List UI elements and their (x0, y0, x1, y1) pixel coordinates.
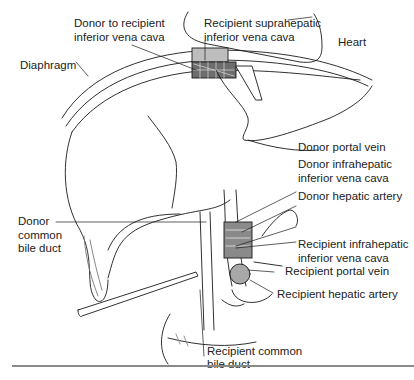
hilar-vessels (200, 190, 298, 330)
label-recipient-suprahepatic-ivc: Recipient suprahepatic inferior vena cav… (204, 17, 321, 44)
label-donor-portal-vein: Donor portal vein (298, 141, 386, 155)
label-donor-common-bile-duct: Donor common bile duct (18, 215, 62, 256)
label-recipient-infrahepatic-ivc: Recipient infrahepatic inferior vena cav… (298, 238, 409, 265)
bottom-rule (12, 365, 414, 367)
label-donor-to-recipient-ivc: Donor to recipient inferior vena cava (74, 17, 165, 44)
label-donor-hepatic-artery: Donor hepatic artery (298, 190, 402, 204)
label-diaphragm: Diaphragm (20, 59, 76, 73)
label-recipient-hepatic-artery: Recipient hepatic artery (277, 288, 398, 302)
label-recipient-portal-vein: Recipient portal vein (285, 265, 389, 279)
label-donor-infrahepatic-ivc: Donor infrahepatic inferior vena cava (298, 158, 392, 185)
suprahepatic-anastomosis (192, 48, 262, 100)
retractor-drawing (78, 272, 198, 317)
label-recipient-common-bile-duct: Recipient common bile duct (207, 345, 302, 371)
label-heart: Heart (338, 36, 366, 50)
